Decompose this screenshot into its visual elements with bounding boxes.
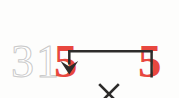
diagram-canvas: 3 1 5 5 <box>0 0 179 98</box>
faded-digit-hundreds: 3 <box>11 39 34 85</box>
units-digit-pairing-arrow-icon <box>54 12 164 46</box>
